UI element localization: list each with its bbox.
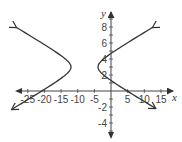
x-tick-label: -15 bbox=[54, 94, 69, 105]
hyperbola-plot: -25-20-15-10-551015 8642-2-4 x y bbox=[0, 0, 182, 142]
x-tick-label: -10 bbox=[70, 94, 85, 105]
y-tick-label: 6 bbox=[101, 38, 107, 49]
y-tick-label: -2 bbox=[98, 102, 107, 113]
x-tick-label: -20 bbox=[37, 94, 52, 105]
x-axis-label: x bbox=[171, 91, 177, 103]
y-tick-label: -4 bbox=[98, 118, 107, 129]
x-tick-label: 15 bbox=[155, 94, 167, 105]
y-axis-label: y bbox=[100, 7, 106, 19]
y-axis-bottom-arrow-icon bbox=[108, 132, 114, 139]
x-tick-label: 5 bbox=[125, 94, 131, 105]
y-tick-label: 8 bbox=[101, 22, 107, 33]
